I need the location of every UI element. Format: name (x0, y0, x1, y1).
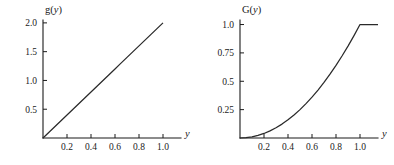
y-tick-label: 0.5 (222, 77, 234, 87)
x-axis-title: y (381, 128, 387, 139)
data-curve (240, 25, 378, 138)
y-axis-title-paren-close: ) (258, 4, 262, 16)
x-tick-label: 0.6 (109, 142, 121, 152)
chart-panel-g: 0.20.40.60.81.00.51.01.52.0g(y)y (0, 0, 197, 165)
x-axis-title: y (184, 128, 190, 139)
chart-svg-G: 0.20.40.60.81.00.250.50.751.0G(y)y (197, 0, 394, 165)
chart-svg-g: 0.20.40.60.81.00.51.01.52.0g(y)y (0, 0, 197, 165)
two-panel-figure: 0.20.40.60.81.00.51.01.52.0g(y)y 0.20.40… (0, 0, 394, 165)
x-tick-label: 1.0 (157, 142, 169, 152)
x-tick-label: 1.0 (354, 142, 366, 152)
x-tick-label: 0.8 (330, 142, 342, 152)
y-tick-label: 1.0 (222, 20, 234, 30)
x-tick-label: 0.4 (282, 142, 294, 152)
x-tick-label: 0.2 (258, 142, 270, 152)
y-tick-label: 0.25 (217, 105, 234, 115)
x-tick-label: 0.8 (133, 142, 145, 152)
x-tick-label: 0.4 (85, 142, 97, 152)
x-tick-label: 0.2 (61, 142, 73, 152)
y-tick-label: 0.75 (217, 48, 234, 58)
data-curve (43, 23, 163, 138)
y-axis-title: g(y) (45, 4, 62, 16)
y-tick-label: 2.0 (25, 18, 37, 28)
x-tick-label: 0.6 (306, 142, 318, 152)
y-axis-title-paren-close: ) (58, 4, 62, 16)
y-tick-label: 0.5 (25, 105, 37, 115)
y-tick-label: 1.0 (25, 76, 37, 86)
chart-panel-G: 0.20.40.60.81.00.250.50.751.0G(y)y (197, 0, 394, 165)
y-axis-title: G(y) (242, 4, 262, 16)
y-tick-label: 1.5 (25, 47, 37, 57)
